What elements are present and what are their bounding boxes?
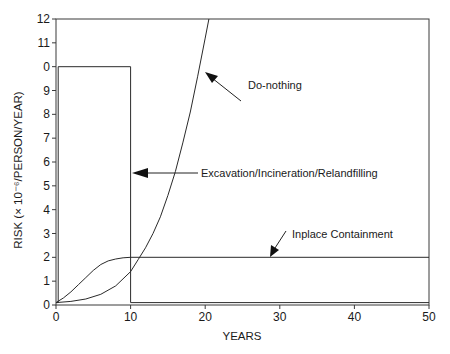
x-tick-label: 10: [124, 310, 138, 324]
y-tick-label: 5: [43, 179, 50, 193]
x-tick-label: 40: [348, 310, 362, 324]
y-axis-title: RISK (× 10⁻⁶/PERSON/YEAR): [12, 91, 24, 249]
risk-chart: 012345678901112 01020304050 Do-nothing E…: [0, 0, 450, 354]
y-tick-label: 8: [43, 107, 50, 121]
y-tick-label: 12: [37, 12, 51, 26]
series-excavation-incineration-relandfilling: [56, 67, 429, 303]
y-tick-label: 4: [43, 203, 50, 217]
arrow-head-icon: [270, 245, 279, 257]
x-tick-label: 0: [53, 310, 60, 324]
y-tick-label: 9: [43, 84, 50, 98]
x-tick-label: 20: [199, 310, 213, 324]
y-tick-label: 2: [43, 250, 50, 264]
series-lines: [56, 19, 429, 303]
annotation-excavation: Excavation/Incineration/Relandfilling: [132, 167, 378, 179]
x-tick-label: 50: [422, 310, 436, 324]
series-do-nothing: [56, 19, 209, 303]
x-axis-ticks: 01020304050: [53, 305, 436, 324]
y-tick-label: 6: [43, 155, 50, 169]
y-axis-ticks: 012345678901112: [37, 12, 56, 312]
y-tick-label: 0: [43, 60, 50, 74]
y-tick-label: 11: [38, 36, 51, 50]
x-tick-label: 30: [273, 310, 287, 324]
series-inplace-containment: [56, 257, 429, 302]
annotation-inplace: Inplace Containment: [270, 228, 393, 257]
annotation-do-nothing: Do-nothing: [205, 72, 302, 101]
y-tick-label: 1: [43, 274, 50, 288]
y-tick-label: 7: [43, 131, 50, 145]
arrow-line: [275, 231, 286, 248]
annotation-label-inplace: Inplace Containment: [292, 228, 393, 240]
annotation-label-excavation: Excavation/Incineration/Relandfilling: [201, 167, 378, 179]
arrow-head-icon: [132, 168, 148, 178]
arrow-line: [212, 78, 241, 101]
x-axis-title: YEARS: [223, 330, 262, 342]
y-tick-label: 0: [43, 298, 50, 312]
plot-frame: [56, 19, 429, 305]
annotation-label-do-nothing: Do-nothing: [248, 79, 302, 91]
y-tick-label: 3: [43, 227, 50, 241]
